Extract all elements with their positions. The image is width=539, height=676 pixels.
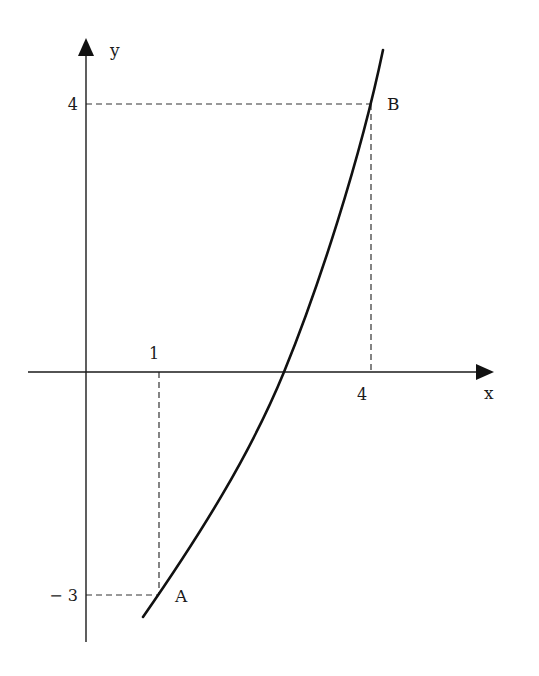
point-b-label: B xyxy=(387,94,400,114)
y-tick-4-label: 4 xyxy=(68,95,78,114)
x-axis xyxy=(28,364,494,380)
guide-lines xyxy=(86,104,371,595)
y-tick-neg3-label: − 3 xyxy=(49,586,78,605)
x-tick-1-label: 1 xyxy=(149,344,159,363)
y-axis xyxy=(78,38,94,642)
x-axis-arrow-icon xyxy=(476,364,494,380)
point-a-label: A xyxy=(174,586,188,606)
x-tick-4-label: 4 xyxy=(357,385,367,404)
x-axis-label: x xyxy=(484,383,494,403)
function-graph: y x 1 4 4 − 3 B A xyxy=(0,0,539,676)
y-axis-arrow-icon xyxy=(78,38,94,56)
function-curve xyxy=(143,50,383,617)
y-axis-label: y xyxy=(109,40,120,60)
